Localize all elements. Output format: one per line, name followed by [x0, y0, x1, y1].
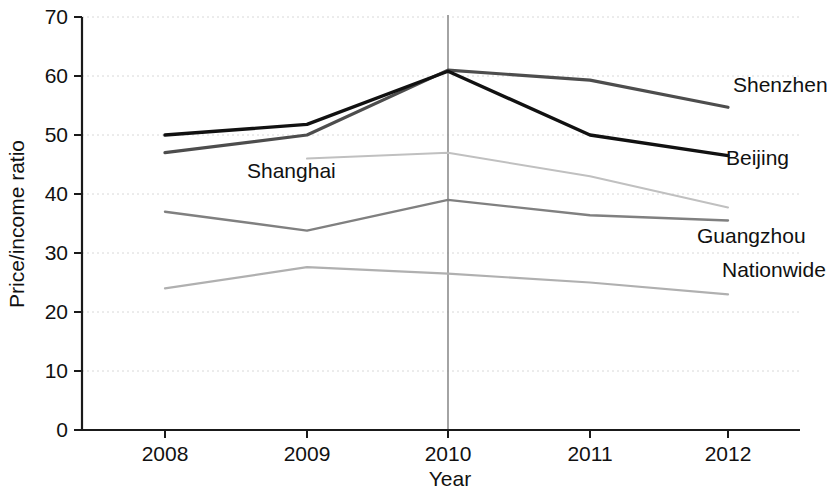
x-tick-label: 2010	[425, 442, 472, 465]
series-label-guangzhou: Guangzhou	[697, 224, 806, 247]
y-axis-title: Price/income ratio	[5, 140, 28, 308]
series-label-nationwide: Nationwide	[722, 258, 826, 281]
series-label-beijing: Beijing	[726, 146, 789, 169]
series-label-shanghai: Shanghai	[247, 159, 336, 182]
x-tick-label: 2008	[142, 442, 189, 465]
y-tick-label: 70	[45, 5, 68, 28]
chart-container: 010203040506070 20082009201020112012 She…	[0, 0, 829, 492]
price-income-ratio-line-chart: 010203040506070 20082009201020112012 She…	[0, 0, 829, 492]
y-tick-label: 20	[45, 300, 68, 323]
y-tick-label: 30	[45, 241, 68, 264]
x-axis-title: Year	[429, 467, 471, 490]
y-tick-label: 10	[45, 359, 68, 382]
y-tick-label: 0	[56, 418, 68, 441]
y-tick-label: 50	[45, 123, 68, 146]
y-tick-label: 60	[45, 64, 68, 87]
x-tick-label: 2011	[567, 442, 612, 465]
y-tick-label: 40	[45, 182, 68, 205]
x-tick-label: 2009	[284, 442, 331, 465]
x-tick-label: 2012	[705, 442, 752, 465]
series-label-shenzhen: Shenzhen	[733, 73, 828, 96]
